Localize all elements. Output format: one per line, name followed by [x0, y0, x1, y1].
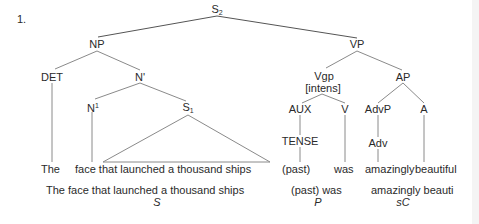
- node-adv: Adv: [369, 137, 388, 149]
- node-n1-label: N: [87, 102, 95, 114]
- function-predicator-tag: P: [314, 196, 321, 208]
- leaf-beautiful: beautiful: [415, 163, 457, 175]
- node-tense: TENSE: [282, 135, 319, 147]
- node-vgp-feature: [intens]: [305, 82, 340, 94]
- node-vp: VP: [350, 38, 365, 50]
- node-aux: AUX: [289, 103, 312, 115]
- function-complement-text: amazingly beauti: [371, 184, 454, 196]
- example-number: 1.: [17, 13, 26, 25]
- leaf-was: was: [334, 163, 354, 175]
- node-det: DET: [41, 71, 63, 83]
- function-subject-tag: S: [153, 196, 160, 208]
- function-predicator-text: (past) was: [291, 184, 342, 196]
- node-np: NP: [89, 38, 104, 50]
- syntax-tree-diagram: 1. S2 NP DET N' N1 S1 VP Vgp [intens] AP…: [0, 0, 479, 224]
- function-complement-tag: sC: [396, 196, 409, 208]
- node-s1: S1: [182, 101, 193, 117]
- node-s2-subscript: 2: [219, 9, 223, 16]
- node-ap: AP: [396, 71, 411, 83]
- node-s1-subscript: 1: [190, 107, 194, 114]
- node-a: A: [420, 103, 427, 115]
- node-s2: S2: [211, 3, 222, 19]
- function-subject-text: The face that launched a thousand ships: [46, 184, 244, 196]
- node-v: V: [341, 103, 348, 115]
- node-vgp: Vgp: [314, 70, 334, 82]
- node-n1: N1: [87, 100, 99, 114]
- node-advp: AdvP: [365, 103, 391, 115]
- node-nbar: N': [135, 71, 145, 83]
- leaf-past: (past): [282, 163, 310, 175]
- leaf-amazingly: amazingly: [365, 163, 415, 175]
- node-n1-superscript: 1: [95, 102, 99, 109]
- leaf-phrase: face that launched a thousand ships: [75, 163, 251, 175]
- leaf-the: The: [41, 163, 60, 175]
